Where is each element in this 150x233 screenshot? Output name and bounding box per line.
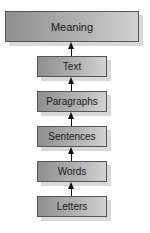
node-meaning: Meaning xyxy=(5,11,139,42)
node-text-label: Text xyxy=(63,61,81,72)
node-paragraphs: Paragraphs xyxy=(37,91,107,112)
node-words-label: Words xyxy=(58,166,87,177)
node-meaning-label: Meaning xyxy=(51,21,93,33)
node-sentences: Sentences xyxy=(37,126,107,147)
node-paragraphs-label: Paragraphs xyxy=(46,96,98,107)
node-words: Words xyxy=(37,161,107,182)
node-letters-label: Letters xyxy=(57,201,88,212)
node-letters: Letters xyxy=(37,196,107,217)
node-text: Text xyxy=(37,56,107,77)
node-sentences-label: Sentences xyxy=(48,131,95,142)
